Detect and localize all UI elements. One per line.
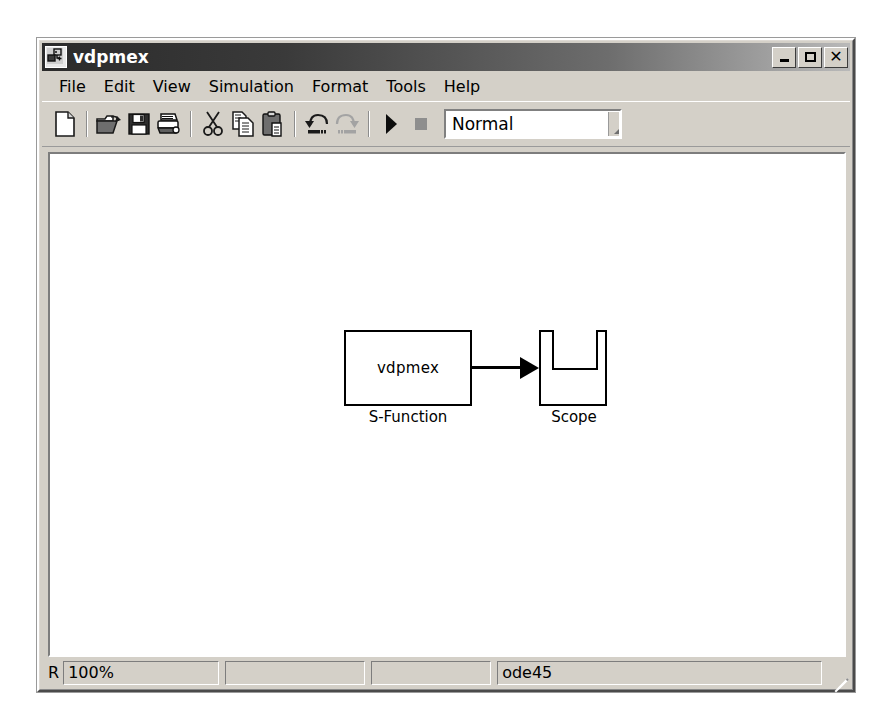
scope-block[interactable] xyxy=(539,330,607,406)
status-solver-panel: ode45 xyxy=(497,661,822,685)
simulation-mode-combobox[interactable]: Normal xyxy=(444,109,622,139)
menu-item-view[interactable]: View xyxy=(144,75,200,98)
scissors-icon xyxy=(203,111,223,137)
floppy-save-icon xyxy=(127,112,151,136)
cut-button[interactable] xyxy=(198,108,228,140)
caption-buttons: ✕ xyxy=(772,47,848,68)
signal-arrow-icon xyxy=(520,357,539,379)
print-button[interactable] xyxy=(154,108,184,140)
s-function-block[interactable]: vdpmex xyxy=(344,330,472,406)
minimize-icon xyxy=(773,48,795,67)
maximize-icon xyxy=(799,48,821,67)
status-zoom-panel: 100% xyxy=(63,661,219,685)
status-bar: R 100% ode45 xyxy=(40,659,852,689)
redo-button xyxy=(332,108,362,140)
menu-bar: File Edit View Simulation Format Tools H… xyxy=(40,71,852,101)
toolbar-separator xyxy=(190,111,192,137)
model-canvas[interactable]: vdpmex S-Function Scope xyxy=(50,154,844,655)
close-button[interactable]: ✕ xyxy=(824,47,848,68)
undo-button[interactable] xyxy=(302,108,332,140)
window-title: vdpmex xyxy=(73,47,772,67)
status-panel-2 xyxy=(225,661,365,685)
play-triangle-icon xyxy=(382,112,400,136)
new-document-icon xyxy=(54,111,76,137)
s-function-block-text: vdpmex xyxy=(377,359,439,377)
menu-item-format[interactable]: Format xyxy=(303,75,377,98)
menu-item-edit[interactable]: Edit xyxy=(95,75,144,98)
paste-button[interactable] xyxy=(258,108,288,140)
menu-item-tools[interactable]: Tools xyxy=(377,75,434,98)
simulink-model-window: vdpmex ✕ File Edit View Simulation Forma… xyxy=(37,38,855,692)
undo-arrow-icon xyxy=(303,112,331,136)
simulation-mode-value: Normal xyxy=(446,114,514,134)
open-model-button[interactable] xyxy=(94,108,124,140)
toolbar: Normal xyxy=(42,101,850,147)
resize-grip-icon[interactable] xyxy=(826,662,848,684)
new-model-button[interactable] xyxy=(50,108,80,140)
window-inner: vdpmex ✕ File Edit View Simulation Forma… xyxy=(39,40,853,690)
save-model-button[interactable] xyxy=(124,108,154,140)
toolbar-container: Normal xyxy=(40,101,852,147)
model-canvas-container: vdpmex S-Function Scope xyxy=(48,152,846,657)
start-simulation-button[interactable] xyxy=(376,108,406,140)
title-bar[interactable]: vdpmex ✕ xyxy=(42,43,850,71)
open-folder-icon xyxy=(96,112,122,136)
status-mode-letter: R xyxy=(46,663,63,682)
copy-button[interactable] xyxy=(228,108,258,140)
signal-line[interactable] xyxy=(472,366,524,369)
status-panel-3 xyxy=(371,661,491,685)
copy-pages-icon xyxy=(231,111,255,137)
stop-square-icon xyxy=(412,115,430,133)
s-function-block-label: S-Function xyxy=(344,408,472,426)
redo-arrow-icon xyxy=(333,112,361,136)
menu-item-help[interactable]: Help xyxy=(435,75,489,98)
toolbar-separator xyxy=(368,111,370,137)
toolbar-separator xyxy=(294,111,296,137)
close-icon: ✕ xyxy=(825,48,847,67)
printer-icon xyxy=(156,112,182,136)
stop-simulation-button xyxy=(406,108,436,140)
simulink-model-icon xyxy=(45,46,67,68)
chevron-down-icon[interactable] xyxy=(608,112,619,136)
menu-item-simulation[interactable]: Simulation xyxy=(200,75,303,98)
toolbar-separator xyxy=(86,111,88,137)
scope-screen-icon xyxy=(552,330,598,370)
minimize-button[interactable] xyxy=(772,47,796,68)
clipboard-paste-icon xyxy=(261,111,285,137)
menu-item-file[interactable]: File xyxy=(50,75,95,98)
scope-block-label: Scope xyxy=(526,408,622,426)
maximize-button[interactable] xyxy=(798,47,822,68)
